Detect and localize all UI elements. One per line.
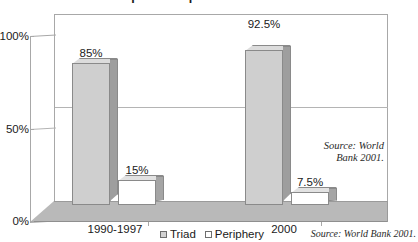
source-note-below-chart: Source: World Bank 2001. [310, 228, 416, 239]
bar-front-face [291, 192, 329, 205]
legend-label-triad: Triad [170, 228, 196, 240]
source-note-inside-plot: Source: World Bank 2001. [312, 140, 384, 164]
y-tick-50-label: 50% [6, 123, 29, 135]
plot-floor-right-edge [387, 201, 388, 222]
x-tick-mark-2 [321, 222, 322, 226]
bar-periphery-1990-1997 [118, 180, 156, 205]
bar-front-face [72, 63, 110, 205]
bar-front-face [118, 180, 156, 205]
chart-title: Distribution of private capital flow [44, 0, 242, 3]
legend-swatch-triad-icon [160, 231, 167, 238]
bar-side-face [156, 176, 164, 201]
bar-triad-2000 [245, 50, 283, 205]
legend-item-triad[interactable]: Triad [160, 228, 196, 240]
plot-floor-front-edge [30, 221, 388, 222]
bar-side-face [329, 188, 337, 201]
y-tick-100-label: 100% [0, 30, 29, 42]
legend-item-periphery[interactable]: Periphery [205, 228, 264, 240]
chart-page: Distribution of private capital flow 100… [0, 0, 418, 242]
bar-front-face [245, 50, 283, 205]
chart-legend: Triad Periphery [160, 228, 264, 240]
bar-triad-1990-1997 [72, 63, 110, 205]
y-tick-0-mark [30, 221, 34, 222]
bar-side-face [110, 59, 118, 201]
bar-label-periphery-2000: 7.5% [289, 176, 331, 188]
y-tick-0-label: 0% [12, 215, 29, 227]
bar-periphery-2000 [291, 192, 329, 205]
source-note-inside-line2: Bank 2001. [312, 152, 384, 164]
y-tick-100-mark [30, 36, 34, 37]
bar-label-triad-1990-1997: 85% [72, 47, 110, 59]
legend-label-periphery: Periphery [215, 228, 264, 240]
bar-label-periphery-1990-1997: 15% [118, 164, 156, 176]
bar-label-triad-2000: 92.5% [242, 18, 286, 30]
source-note-inside-line1: Source: World [312, 140, 384, 152]
plot-left-wall [30, 14, 55, 222]
y-tick-50-mark [30, 129, 34, 130]
x-tick-label-1990-1997: 1990-1997 [75, 223, 155, 235]
legend-swatch-periphery-icon [205, 231, 212, 238]
